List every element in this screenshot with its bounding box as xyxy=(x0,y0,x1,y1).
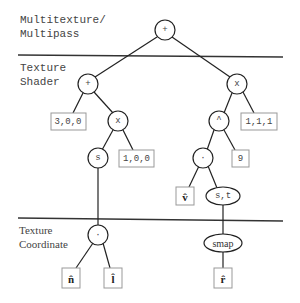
leaf-v-hat: v̂ xyxy=(176,187,194,205)
leaf-r-hat-label: r̂ xyxy=(221,273,226,285)
leaf-vec-100: 1,0,0 xyxy=(119,150,154,167)
leaf-vec-111-label: 1,1,1 xyxy=(245,117,272,127)
section-label-texture-shader-line1: Texture xyxy=(20,62,66,74)
leaf-vec-300-label: 3,0,0 xyxy=(54,117,81,127)
leaf-vec-100-label: 1,0,0 xyxy=(123,154,150,164)
section-label-multitexture-line2: Multipass xyxy=(20,28,79,40)
node-left-add-label: + xyxy=(85,79,90,89)
node-left-mul: x xyxy=(108,111,128,131)
leaf-n-hat-label: n̂ xyxy=(68,273,74,285)
leaf-exp-9: 9 xyxy=(232,150,249,167)
node-pow-label: ^ xyxy=(216,115,221,125)
leaf-exp-9-label: 9 xyxy=(238,154,243,164)
node-dot-lower-label: · xyxy=(95,230,100,240)
section-label-multitexture-line1: Multitexture/ xyxy=(20,14,106,26)
node-s-label: s xyxy=(95,153,100,163)
leaf-v-hat-label: v̂ xyxy=(182,191,188,203)
leaf-vec-111: 1,1,1 xyxy=(241,113,277,130)
section-label-texture-shader-line2: Shader xyxy=(20,76,60,88)
section-label-texture-coordinate-line2: Coordinate xyxy=(19,238,68,250)
node-right-mul: x xyxy=(227,74,247,94)
expression-tree-diagram: Multitexture/ Multipass Texture Shader T… xyxy=(0,0,300,303)
section-label-texture-coordinate-line1: Texture xyxy=(19,224,53,236)
node-smap-label: smap xyxy=(212,238,233,249)
node-dot-lower: · xyxy=(88,225,108,245)
leaf-vec-300: 3,0,0 xyxy=(51,113,86,130)
node-root-add-label: + xyxy=(162,25,167,35)
node-smap: smap xyxy=(204,234,242,252)
node-root-add: + xyxy=(155,20,175,40)
node-right-mul-label: x xyxy=(234,79,239,89)
node-st: s,t xyxy=(206,187,240,205)
node-dot-upper-label: · xyxy=(200,153,205,163)
separator-shader-coordinate xyxy=(18,218,283,221)
node-left-mul-label: x xyxy=(115,116,120,126)
leaf-l-hat-label: l̂ xyxy=(111,273,115,285)
leaf-l-hat: l̂ xyxy=(104,268,122,288)
node-dot-upper: · xyxy=(193,148,213,168)
node-s: s xyxy=(88,148,108,168)
leaf-n-hat: n̂ xyxy=(62,268,80,288)
node-left-add: + xyxy=(78,74,98,94)
node-st-label: s,t xyxy=(215,191,231,201)
node-pow: ^ xyxy=(209,111,229,131)
separator-multitexture-shader xyxy=(18,55,283,57)
leaf-r-hat: r̂ xyxy=(214,268,232,288)
